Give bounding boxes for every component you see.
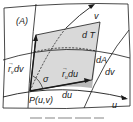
surface-area-label: dA	[96, 55, 107, 65]
svg-text:du: du	[68, 69, 78, 79]
angle-label: σ	[43, 74, 49, 84]
svg-text:→: →	[62, 65, 68, 71]
point-label: P(u,v)	[29, 95, 53, 105]
tangent-plane-label: d T	[82, 30, 97, 40]
surface-area-diagram: (A) d T dA v u r v dv → r u du → σ P(u,v…	[0, 0, 133, 122]
rv-dv-label: r v dv →	[8, 60, 24, 75]
u-axis-label: u	[112, 100, 117, 110]
svg-text:dv: dv	[14, 64, 24, 74]
caption-blur	[30, 117, 104, 119]
dv-label: dv	[105, 67, 115, 77]
panel-label: (A)	[16, 16, 28, 26]
u-arrowhead-icon	[121, 95, 128, 100]
v-axis-label: v	[94, 11, 99, 21]
du-label: du	[62, 90, 72, 100]
svg-text:→: →	[8, 60, 14, 66]
